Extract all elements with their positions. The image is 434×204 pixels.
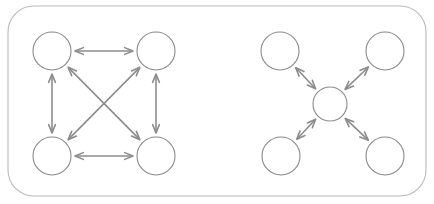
star-node-bottom-left (262, 137, 300, 175)
topology-diagram-svg (0, 0, 434, 204)
star-node-hub (313, 87, 347, 121)
star-node-top-right (366, 32, 404, 70)
star-node-top-left (261, 32, 299, 70)
mesh-node-top-right (137, 32, 175, 70)
rounded-panel-border (8, 6, 426, 196)
mesh-node-bottom-left (33, 137, 71, 175)
star-node-bottom-right (366, 137, 404, 175)
mesh-node-top-left (33, 32, 71, 70)
mesh-node-bottom-right (137, 137, 175, 175)
diagram-canvas (0, 0, 434, 204)
